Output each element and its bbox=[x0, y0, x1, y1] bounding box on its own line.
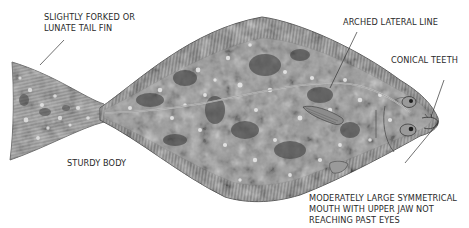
label-mouth: MODERATELY LARGE SYMMETRICAL MOUTH WITH … bbox=[309, 193, 457, 226]
label-tail-fin: SLIGHTLY FORKED OR LUNATE TAIL FIN bbox=[44, 12, 135, 34]
label-line: MOUTH WITH UPPER JAW NOT bbox=[309, 204, 457, 215]
fish-body bbox=[95, 15, 445, 210]
label-lateral-line: ARCHED LATERAL LINE bbox=[343, 17, 438, 28]
tail-fin bbox=[0, 55, 110, 165]
label-line: LUNATE TAIL FIN bbox=[44, 23, 135, 34]
upper-eye bbox=[402, 97, 416, 108]
label-sturdy-body: STURDY BODY bbox=[67, 158, 126, 169]
label-conical-teeth: CONICAL TEETH bbox=[391, 55, 458, 66]
label-line: SLIGHTLY FORKED OR bbox=[44, 12, 135, 23]
leader-line-teeth bbox=[431, 80, 444, 117]
label-line: CONICAL TEETH bbox=[391, 55, 458, 66]
label-line: ARCHED LATERAL LINE bbox=[343, 17, 438, 28]
fish-diagram: SLIGHTLY FORKED OR LUNATE TAIL FIN ARCHE… bbox=[0, 0, 469, 228]
label-line: REACHING PAST EYES bbox=[309, 215, 457, 226]
lower-eye bbox=[400, 124, 416, 136]
label-line: MODERATELY LARGE SYMMETRICAL bbox=[309, 193, 457, 204]
leader-line-tail bbox=[40, 40, 64, 65]
label-line: STURDY BODY bbox=[67, 158, 126, 169]
